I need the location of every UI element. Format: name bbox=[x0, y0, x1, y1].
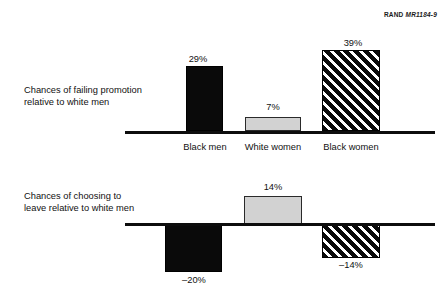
figure-canvas: RAND MR1184-9 Chances of failing promoti… bbox=[0, 0, 445, 306]
bar-value-label-black-men-leave: –20% bbox=[166, 275, 222, 285]
panel-leave-plot: 14% –20% –14% bbox=[0, 0, 445, 306]
baseline-leave bbox=[125, 223, 435, 226]
bar-white-women-leave[interactable] bbox=[244, 196, 302, 224]
bar-value-label-white-women-leave: 14% bbox=[246, 182, 300, 192]
bar-black-men-leave[interactable] bbox=[165, 224, 222, 272]
bar-value-label-black-women-leave: –14% bbox=[323, 260, 379, 270]
bar-black-women-leave[interactable] bbox=[322, 224, 380, 258]
